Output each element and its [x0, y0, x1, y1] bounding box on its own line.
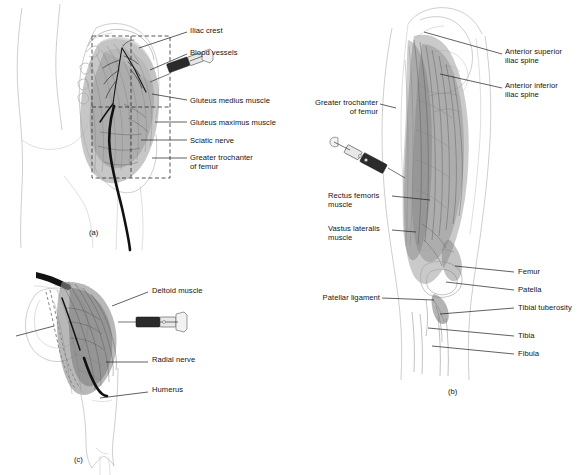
caption-panel-b: (b): [448, 387, 457, 396]
label-femur: Femur: [518, 267, 540, 276]
panel-b-vastus-lateralis: Anterior superior iliac spine Anterior i…: [300, 0, 578, 400]
caption-panel-a: (a): [89, 228, 98, 237]
label-patella: Patella: [518, 285, 542, 294]
label-deltoid-muscle: Deltoid muscle: [152, 286, 203, 295]
label-vastus-lateralis: Vastus lateralis muscle: [328, 224, 380, 243]
syringe-c[interactable]: [118, 312, 187, 332]
label-gluteus-medius: Gluteus medius muscle: [190, 96, 270, 105]
label-radial-nerve: Radial nerve: [152, 355, 195, 364]
label-tibial-tuberosity: Tibial tuberosity: [518, 303, 572, 312]
label-patellar-ligament: Patellar ligament: [300, 293, 380, 302]
panel-a-dorsogluteal: Iliac crest Blood vessels Gluteus medius…: [0, 0, 300, 250]
label-fibula: Fibula: [518, 349, 539, 358]
caption-panel-c: (c): [74, 455, 83, 464]
label-sciatic-nerve: Sciatic nerve: [190, 136, 234, 145]
label-humerus: Humerus: [152, 385, 183, 394]
label-gluteus-maximus: Gluteus maximus muscle: [190, 118, 276, 127]
label-anterior-inferior-iliac-spine: Anterior inferior iliac spine: [505, 81, 558, 100]
label-iliac-crest: Iliac crest: [190, 26, 223, 35]
syringe-b[interactable]: [330, 137, 405, 178]
label-greater-trochanter-b: Greater trochanter of femur: [300, 98, 378, 117]
panel-c-artwork: [0, 250, 300, 475]
label-tibia: Tibia: [518, 331, 534, 340]
label-rectus-femoris: Rectus femoris muscle: [328, 191, 379, 210]
label-greater-trochanter-a: Greater trochanter of femur: [190, 153, 253, 172]
figure-root: Iliac crest Blood vessels Gluteus medius…: [0, 0, 578, 475]
label-anterior-superior-iliac-spine: Anterior superior iliac spine: [505, 47, 562, 66]
panel-c-deltoid: Deltoid muscle Radial nerve Humerus (c): [0, 250, 300, 475]
label-blood-vessels: Blood vessels: [190, 48, 238, 57]
